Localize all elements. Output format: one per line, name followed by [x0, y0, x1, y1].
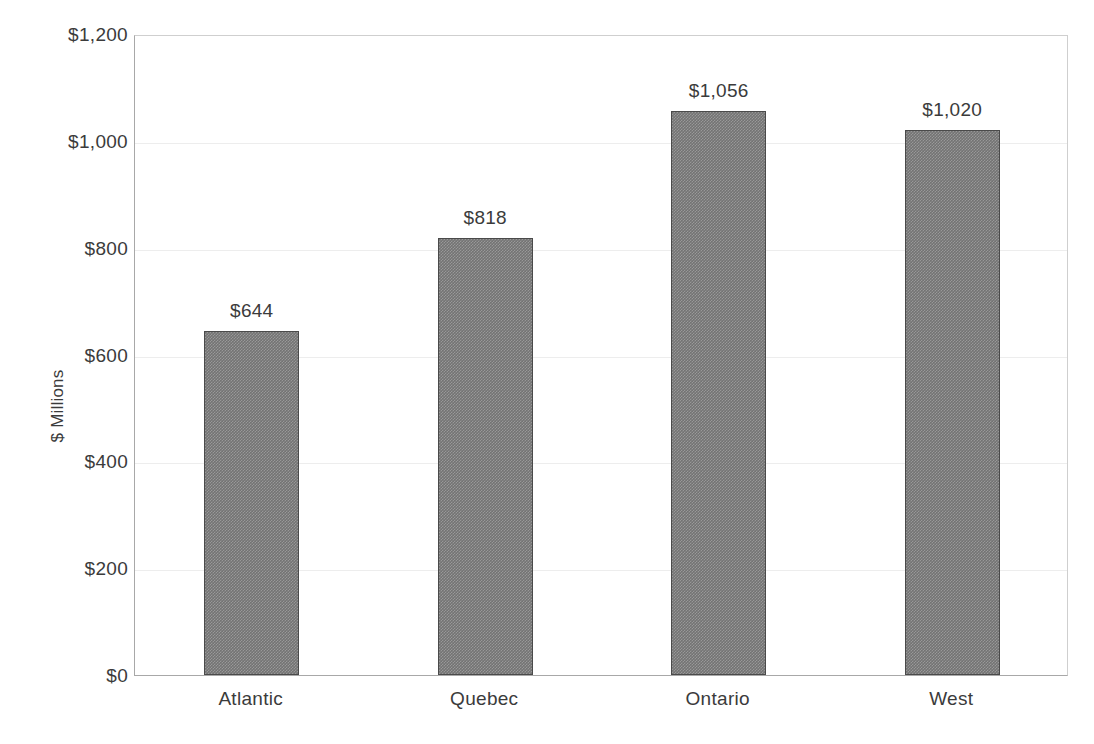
bar[interactable]	[438, 238, 533, 675]
bar-value-label: $644	[164, 300, 339, 322]
y-axis-tick-label: $200	[0, 558, 128, 580]
y-axis-tick-labels: $0$200$400$600$800$1,000$1,200	[0, 0, 128, 744]
bar-value-label: $818	[398, 207, 573, 229]
x-axis-tick-label: Ontario	[686, 688, 750, 710]
x-axis-tick-label: Atlantic	[218, 688, 283, 710]
bar-group: $1,020	[905, 36, 1000, 675]
y-axis-tick-label: $400	[0, 451, 128, 473]
y-axis-tick-label: $1,000	[0, 131, 128, 153]
x-axis-tick-label: Quebec	[450, 688, 518, 710]
y-axis-tick-label: $1,200	[0, 24, 128, 46]
y-axis-tick-label: $800	[0, 238, 128, 260]
x-axis-tick-label: West	[929, 688, 973, 710]
bar[interactable]	[671, 111, 766, 675]
bar-value-label: $1,020	[865, 99, 1040, 121]
bars-layer: $644$818$1,056$1,020	[135, 36, 1067, 675]
y-axis-tick-label: $600	[0, 345, 128, 367]
bar-group: $818	[438, 36, 533, 675]
bar[interactable]	[204, 331, 299, 675]
bar-chart: $ Millions $0$200$400$600$800$1,000$1,20…	[0, 0, 1094, 744]
bar-value-label: $1,056	[631, 80, 806, 102]
bar-group: $644	[204, 36, 299, 675]
plot-area: $644$818$1,056$1,020	[134, 35, 1068, 676]
x-axis-tick-labels: AtlanticQuebecOntarioWest	[134, 688, 1068, 728]
bar[interactable]	[905, 130, 1000, 675]
y-axis-tick-label: $0	[0, 665, 128, 687]
bar-group: $1,056	[671, 36, 766, 675]
